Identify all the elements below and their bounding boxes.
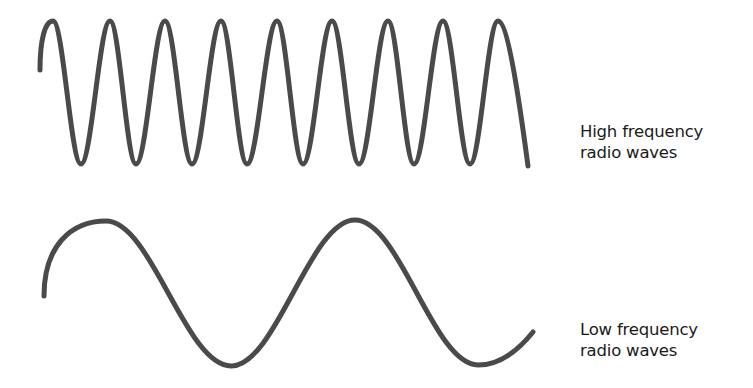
high-frequency-label: High frequency radio waves xyxy=(580,121,703,163)
high-frequency-label-line1: High frequency xyxy=(580,121,703,142)
low-frequency-wave xyxy=(44,220,533,366)
low-frequency-label-line2: radio waves xyxy=(580,340,698,361)
high-frequency-label-line2: radio waves xyxy=(580,142,703,163)
low-frequency-label: Low frequency radio waves xyxy=(580,319,698,361)
low-frequency-label-line1: Low frequency xyxy=(580,319,698,340)
high-frequency-wave xyxy=(40,21,528,166)
